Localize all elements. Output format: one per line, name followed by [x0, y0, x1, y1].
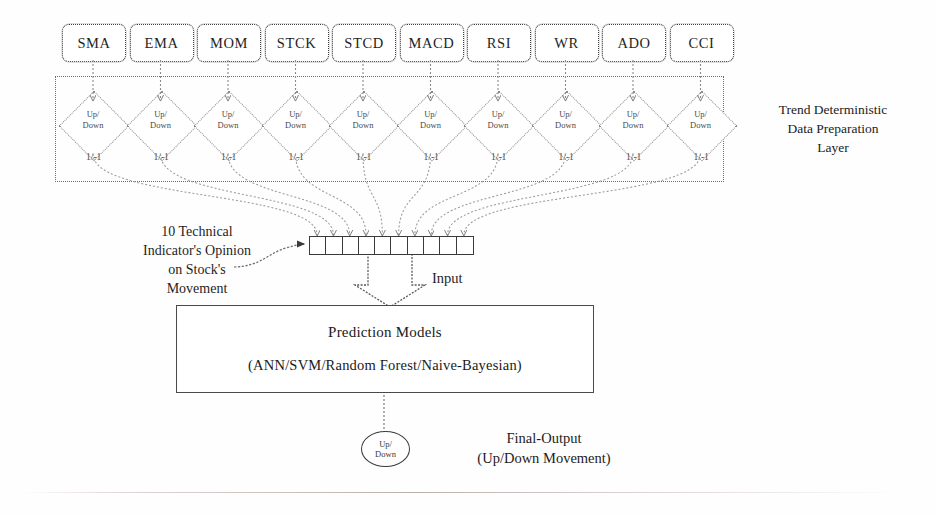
diamond-label: Up/ Down: [529, 109, 603, 130]
layer-caption: Trend Deterministic Data Preparation Lay…: [738, 100, 928, 157]
indicator-label: STCK: [277, 35, 316, 52]
indicator-box-stcd: STCD: [332, 24, 396, 62]
indicator-box-ema: EMA: [130, 24, 194, 62]
scan-artifact-line: [20, 492, 900, 493]
indicator-label: MOM: [210, 35, 248, 52]
diamond-label: Up/ Down: [664, 109, 738, 130]
decision-diamond-ema: Up/ Down1/-1: [124, 96, 198, 158]
diamond-label: Up/ Down: [596, 109, 670, 130]
input-vector-cell: [375, 237, 391, 254]
decision-diamond-stcd: Up/ Down1/-1: [326, 96, 400, 158]
decision-diamond-ado: Up/ Down1/-1: [596, 96, 670, 158]
indicator-box-stck: STCK: [265, 24, 329, 62]
indicator-box-rsi: RSI: [467, 24, 531, 62]
diamond-label: Up/ Down: [191, 109, 265, 130]
diamond-label: Up/ Down: [124, 109, 198, 130]
diamond-value-label: 1/-1: [694, 152, 738, 162]
diamond-label: Up/ Down: [461, 109, 535, 130]
final-output-caption: Final-Output (Up/Down Movement): [424, 428, 664, 468]
input-vector-cell: [343, 237, 359, 254]
decision-diamond-stck: Up/ Down1/-1: [259, 96, 333, 158]
indicator-label: ADO: [617, 35, 650, 52]
diagram-canvas: SMAEMAMOMSTCKSTCDMACDRSIWRADOCCI Up/ Dow…: [0, 0, 935, 516]
indicator-box-wr: WR: [535, 24, 599, 62]
diamond-label: Up/ Down: [56, 109, 130, 130]
indicator-label: SMA: [77, 35, 110, 52]
indicator-box-cci: CCI: [670, 24, 734, 62]
prediction-models-box: Prediction Models (ANN/SVM/Random Forest…: [176, 305, 594, 393]
decision-diamond-mom: Up/ Down1/-1: [191, 96, 265, 158]
decision-diamond-rsi: Up/ Down1/-1: [461, 96, 535, 158]
indicator-label: WR: [554, 35, 579, 52]
indicator-box-mom: MOM: [197, 24, 261, 62]
indicator-label: EMA: [144, 35, 178, 52]
input-vector-cell: [326, 237, 342, 254]
diamond-label: Up/ Down: [259, 109, 333, 130]
decision-diamond-cci: Up/ Down1/-1: [664, 96, 738, 158]
indicator-label: CCI: [689, 35, 715, 52]
indicator-box-ado: ADO: [602, 24, 666, 62]
decision-diamond-wr: Up/ Down1/-1: [529, 96, 603, 158]
input-vector-cell: [391, 237, 407, 254]
input-vector-cell: [440, 237, 456, 254]
diamond-label: Up/ Down: [394, 109, 468, 130]
prediction-models-subtitle: (ANN/SVM/Random Forest/Naive-Bayesian): [248, 357, 522, 374]
decision-diamond-sma: Up/ Down1/-1: [56, 96, 130, 158]
input-vector-cell: [310, 237, 326, 254]
indicator-label: STCD: [344, 35, 383, 52]
prediction-models-title: Prediction Models: [328, 324, 442, 341]
final-output-node: Up/ Down: [361, 431, 410, 467]
input-feature-vector: [309, 236, 474, 255]
input-vector-cell: [424, 237, 440, 254]
input-vector-cell: [457, 237, 473, 254]
input-arrow-label: Input: [432, 270, 463, 287]
indicator-label: MACD: [409, 35, 455, 52]
indicator-box-sma: SMA: [62, 24, 126, 62]
input-block-arrow: [355, 253, 425, 307]
opinion-caption: 10 Technical Indicator's Opinion on Stoc…: [92, 222, 302, 298]
input-vector-cell: [408, 237, 424, 254]
diamond-label: Up/ Down: [326, 109, 400, 130]
input-vector-cell: [359, 237, 375, 254]
decision-diamond-macd: Up/ Down1/-1: [394, 96, 468, 158]
indicator-box-macd: MACD: [400, 24, 464, 62]
indicator-label: RSI: [487, 35, 511, 52]
